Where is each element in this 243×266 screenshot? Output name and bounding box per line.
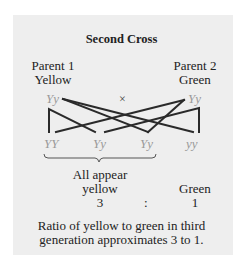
ratio-separator: : bbox=[144, 196, 148, 210]
green-group-label: Green 1 bbox=[172, 182, 218, 210]
caption-line2: generation approximates 3 to 1. bbox=[0, 233, 243, 247]
yellow-group-label: All appear yellow 3 bbox=[60, 168, 140, 210]
offspring-genotype-3: Yy bbox=[140, 136, 153, 152]
yellow-count: 3 bbox=[60, 196, 140, 210]
caption: Ratio of yellow to green in third genera… bbox=[0, 219, 243, 247]
offspring-genotype-1: YY bbox=[44, 136, 58, 152]
caption-line1: Ratio of yellow to green in third bbox=[0, 219, 243, 233]
yellow-label-line1: All appear bbox=[60, 168, 140, 182]
yellow-group-brace bbox=[44, 154, 156, 162]
offspring-genotype-2: Yy bbox=[93, 136, 106, 152]
yellow-label-line2: yellow bbox=[60, 182, 140, 196]
green-count: 1 bbox=[172, 196, 218, 210]
green-label: Green bbox=[172, 182, 218, 196]
offspring-genotype-4: yy bbox=[186, 136, 198, 152]
